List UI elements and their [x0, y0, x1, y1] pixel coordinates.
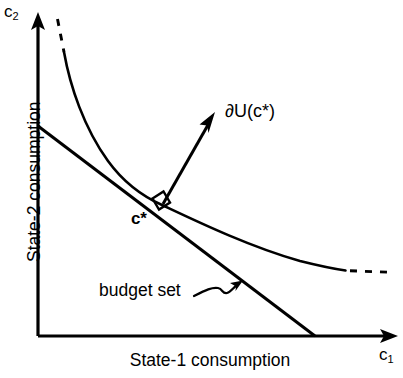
gradient-vector-arrowhead: [200, 112, 216, 133]
axes-group: [31, 12, 398, 343]
x-axis-variable-base: c: [379, 345, 388, 364]
indifference-curve-group: [58, 19, 389, 272]
x-axis-variable-label: c1: [379, 346, 394, 365]
budget-set-callout-squiggle: [194, 285, 237, 296]
y-axis-variable-label: c2: [4, 3, 19, 22]
budget-line-group: [38, 126, 315, 336]
budget-set-label: budget set: [99, 282, 181, 300]
indifference-curve-dashed-upper: [58, 19, 65, 52]
budget-set-callout-group: [194, 281, 243, 297]
diagram-svg: [0, 0, 403, 378]
figure-canvas: c2 c1 State-2 consumption State-1 consum…: [0, 0, 403, 378]
optimum-point-label: c*: [131, 210, 146, 227]
gradient-vector-group: [163, 112, 215, 204]
x-axis-variable-subscript: 1: [388, 353, 394, 365]
x-axis-title: State-1 consumption: [110, 352, 310, 370]
indifference-curve-solid: [64, 52, 346, 271]
budget-line: [38, 126, 315, 336]
gradient-vector-shaft: [163, 124, 209, 204]
gradient-vector-label: ∂U(c*): [225, 102, 275, 120]
indifference-curve-dashed-right: [350, 271, 388, 272]
y-axis-variable-subscript: 2: [13, 10, 19, 22]
y-axis-variable-base: c: [4, 2, 13, 21]
y-axis-title: State-2 consumption: [26, 72, 44, 292]
